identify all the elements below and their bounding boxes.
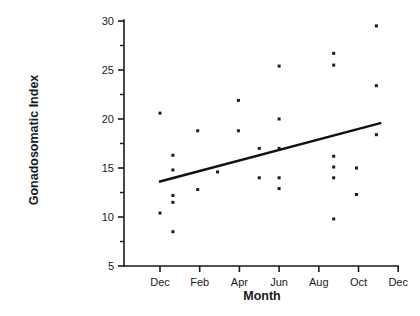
data-point-marker [278, 65, 281, 68]
y-tick-label: 10 [102, 211, 114, 223]
y-tick-label: 30 [102, 15, 114, 27]
x-axis-title: Month [243, 289, 280, 303]
data-point-marker [278, 118, 281, 121]
y-tick-label: 25 [102, 64, 114, 76]
x-tick-label: Oct [350, 276, 367, 288]
data-point-marker [237, 129, 240, 132]
data-point-marker [258, 147, 261, 150]
data-point-marker [332, 155, 335, 158]
data-point-marker [375, 133, 378, 136]
y-axis-title: Gonadosomatic Index [27, 75, 41, 206]
x-tick-label: Dec [388, 276, 408, 288]
scatter-plot-figure: 51015202530 DecFebAprJunAugOctDec Gonado… [0, 0, 420, 316]
plot-canvas: 51015202530 DecFebAprJunAugOctDec Gonado… [0, 0, 420, 316]
axes [124, 20, 398, 266]
y-tick-label: 15 [102, 162, 114, 174]
data-point-marker [278, 147, 281, 150]
y-tick-label: 5 [108, 260, 114, 272]
data-point-marker [332, 176, 335, 179]
data-point-marker [375, 24, 378, 27]
data-point-marker [171, 201, 174, 204]
data-point-marker [171, 168, 174, 171]
data-point-marker [355, 167, 358, 170]
data-point-marker [332, 166, 335, 169]
y-tick-label: 20 [102, 113, 114, 125]
y-tick-labels: 51015202530 [102, 15, 114, 272]
data-point-marker [278, 176, 281, 179]
x-tick-label: Aug [309, 276, 329, 288]
data-point-marker [278, 187, 281, 190]
axis-ticks [118, 21, 398, 272]
x-tick-label: Dec [150, 276, 170, 288]
data-point-marker [237, 99, 240, 102]
data-point-marker [196, 129, 199, 132]
data-point-marker [171, 230, 174, 233]
data-point-marker [196, 188, 199, 191]
data-point-marker [375, 84, 378, 87]
data-point-marker [332, 217, 335, 220]
x-tick-label: Jun [270, 276, 288, 288]
data-point-marker [159, 112, 162, 115]
data-point-marker [171, 154, 174, 157]
data-point-marker [258, 176, 261, 179]
data-point-marker [159, 212, 162, 215]
x-tick-labels: DecFebAprJunAugOctDec [150, 276, 408, 288]
regression-trend-line [159, 123, 381, 182]
data-point-marker [216, 170, 219, 173]
data-point-marker [332, 64, 335, 67]
data-point-marker [355, 193, 358, 196]
data-point-marker [332, 52, 335, 55]
x-tick-label: Feb [190, 276, 209, 288]
data-points [159, 24, 378, 233]
x-tick-label: Apr [231, 276, 248, 288]
data-point-marker [171, 194, 174, 197]
trend-line-segment [159, 123, 381, 182]
